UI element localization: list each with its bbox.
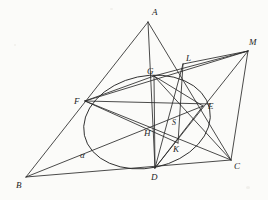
point-label-F: F: [73, 96, 80, 106]
segment-side-AC: [148, 22, 231, 160]
segment-chord-DM: [155, 51, 248, 168]
point-label-B: B: [16, 180, 22, 190]
point-label-S: S: [172, 118, 176, 127]
point-label-H: H: [143, 128, 151, 138]
segment-chord-GC: [154, 76, 231, 160]
segment-line-FM: [85, 51, 248, 101]
paper-speck: [110, 8, 113, 10]
point-label-A: A: [151, 7, 158, 17]
point-label-C: C: [234, 161, 241, 171]
geometry-canvas: A B C D E F G H K L M S α: [0, 0, 268, 200]
point-label-E: E: [207, 101, 214, 111]
paper-speck: [14, 44, 16, 46]
paper-speck: [246, 186, 250, 189]
geometry-figure: A B C D E F G H K L M S α: [0, 0, 268, 200]
point-label-D: D: [150, 172, 158, 182]
point-label-G: G: [147, 66, 154, 76]
point-label-L: L: [185, 53, 191, 63]
segment-line-LM: [183, 51, 248, 64]
segment-chord-FE: [85, 101, 210, 104]
segment-side-BC: [26, 160, 231, 177]
conic-label-alpha: α: [80, 150, 85, 160]
point-label-M: M: [248, 37, 257, 47]
point-label-K: K: [172, 144, 180, 154]
segment-side-AB: [26, 22, 148, 177]
segment-line-CM: [231, 51, 248, 160]
